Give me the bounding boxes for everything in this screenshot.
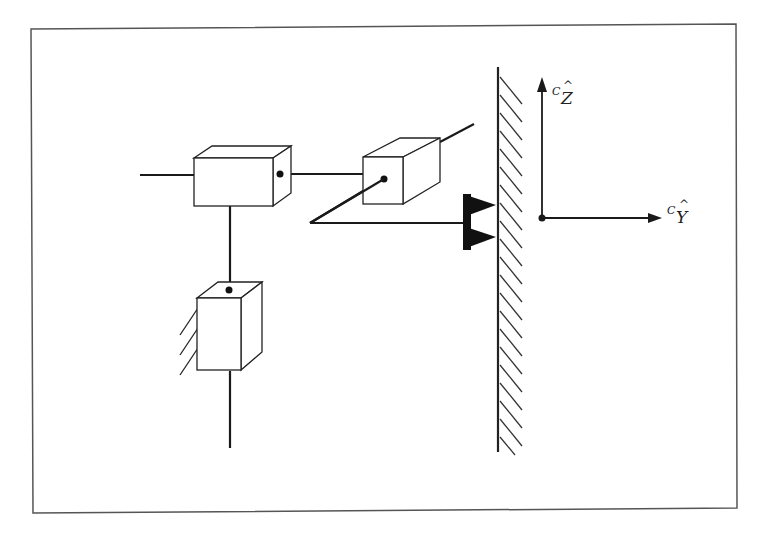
z-axis-label: Z [560, 88, 574, 108]
y-axis-superscript: C [667, 204, 676, 217]
z-axis-superscript: C [552, 85, 561, 98]
diagram-canvas: C ^ Z C ^ Y [0, 0, 762, 534]
joint-pin-3 [226, 287, 233, 294]
frame-border [31, 24, 737, 513]
prismatic-joint-box-1 [194, 146, 291, 206]
prismatic-joint-box-3 [197, 282, 262, 370]
joint-pin-1 [277, 171, 284, 178]
y-axis-label: Y [676, 207, 689, 227]
